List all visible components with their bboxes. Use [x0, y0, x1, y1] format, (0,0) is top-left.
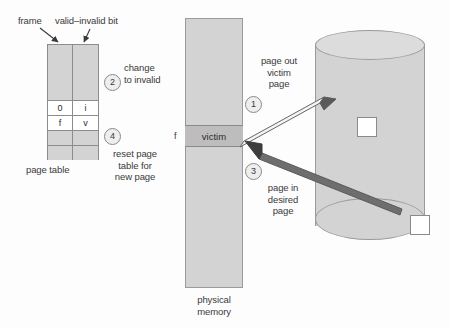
step-2-marker[interactable]: 2: [104, 74, 121, 91]
disk-cylinder[interactable]: [315, 30, 425, 240]
page-table-valid-cell: [73, 131, 98, 145]
page-table-upper-block: [48, 45, 98, 101]
page-table-upper-frame-column: [48, 45, 73, 100]
diagram-canvas: frame valid–invalid bit 0 i f v page tab…: [0, 0, 449, 328]
disk-top-ellipse: [315, 30, 425, 60]
page-table-frame-cell: [48, 146, 73, 160]
step-3-marker[interactable]: 3: [245, 163, 262, 180]
valid-invalid-label-leader: [84, 29, 90, 42]
disk-bottom-ellipse: [315, 198, 425, 240]
page-table-valid-cell: v: [73, 116, 98, 130]
step-4-text: reset page table for new page: [96, 148, 174, 183]
page-table-upper-valid-column: [73, 45, 98, 100]
frame-column-label: frame: [18, 15, 42, 27]
physical-memory-caption: physical memory: [178, 294, 250, 317]
step-1-text: page out victim page: [246, 55, 312, 90]
victim-frame-cell[interactable]: victim: [185, 125, 243, 147]
step-4-marker[interactable]: 4: [104, 128, 121, 145]
table-row[interactable]: f v: [48, 116, 98, 131]
table-row[interactable]: [48, 146, 98, 160]
page-table-frame-cell: f: [48, 116, 73, 130]
page-table[interactable]: 0 i f v: [47, 44, 99, 160]
victim-frame-index-label: f: [174, 131, 177, 141]
frame-label-leader: [40, 28, 58, 42]
disk-block-desired-page[interactable]: [410, 215, 430, 235]
page-table-frame-cell: [48, 131, 73, 145]
page-table-frame-cell: 0: [48, 101, 73, 115]
step-1-marker[interactable]: 1: [245, 96, 262, 113]
physical-memory-block[interactable]: [185, 18, 243, 288]
page-table-valid-cell: i: [73, 101, 98, 115]
step-2-text: change to invalid: [124, 62, 161, 85]
page-table-valid-cell: [73, 146, 98, 160]
valid-invalid-bit-column-label: valid–invalid bit: [55, 15, 118, 27]
page-table-caption: page table: [26, 164, 69, 176]
table-row[interactable]: [48, 131, 98, 146]
disk-block-victim-destination[interactable]: [357, 117, 377, 137]
step-3-text: page in desired page: [248, 182, 318, 217]
table-row[interactable]: 0 i: [48, 101, 98, 116]
